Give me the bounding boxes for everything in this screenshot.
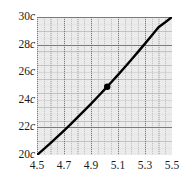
x-axis-tick-labels: 4.54.74.95.15.35.5	[0, 0, 183, 181]
x-tick-label: 5.5	[157, 159, 183, 171]
x-tick-label: 5.1	[103, 159, 133, 171]
x-tick-label: 4.7	[49, 159, 79, 171]
chart-figure: 30c28c26c24c22c20c 4.54.74.95.15.35.5	[0, 0, 183, 181]
x-tick-label: 4.9	[76, 159, 106, 171]
x-tick-label: 5.3	[130, 159, 160, 171]
x-tick-label: 4.5	[22, 159, 52, 171]
